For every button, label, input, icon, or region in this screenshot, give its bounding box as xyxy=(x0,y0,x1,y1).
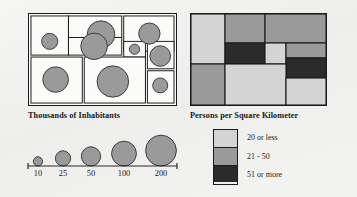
choropleth-map-canvas xyxy=(191,14,326,105)
scale-tick-label: 10 xyxy=(34,169,42,178)
figure-canvas: Thousands of Inhabitants Persons per Squ… xyxy=(0,0,357,197)
choropleth-cell xyxy=(265,43,286,64)
proportional-symbol xyxy=(129,44,139,54)
scale-symbol-group xyxy=(33,135,176,166)
legend-swatch-column xyxy=(213,129,238,185)
proportional-symbol-map xyxy=(28,13,177,106)
choropleth-cell xyxy=(225,64,286,105)
symbol-size-scale: 102550100200 xyxy=(25,132,180,184)
legend-label-1: 21 - 50 xyxy=(247,148,282,167)
scale-tick-label-group: 102550100200 xyxy=(34,169,167,178)
choropleth-map xyxy=(190,13,327,106)
choropleth-cell xyxy=(191,14,225,64)
proportional-symbol xyxy=(42,33,58,49)
choropleth-legend: 20 or less 21 - 50 51 or more xyxy=(213,129,282,185)
legend-label-column: 20 or less 21 - 50 51 or more xyxy=(247,129,282,185)
scale-symbol xyxy=(146,135,177,166)
choropleth-map-title: Persons per Square Kilometer xyxy=(190,111,298,120)
proportional-symbol xyxy=(153,78,168,93)
choropleth-cell-group xyxy=(191,14,326,105)
legend-swatch-1 xyxy=(214,147,237,164)
proportional-map-title: Thousands of Inhabitants xyxy=(28,111,120,120)
proportional-symbol-map-canvas xyxy=(29,14,176,105)
proportional-symbol xyxy=(150,46,171,67)
proportional-symbol xyxy=(81,33,108,59)
legend-swatch-0 xyxy=(214,130,237,147)
choropleth-cell xyxy=(286,58,326,78)
proportional-symbol xyxy=(43,67,69,92)
choropleth-cell xyxy=(286,78,326,105)
scale-symbol xyxy=(55,151,70,166)
choropleth-cell xyxy=(286,43,326,58)
proportional-symbol xyxy=(97,66,129,97)
choropleth-cell xyxy=(225,43,265,64)
scale-symbol xyxy=(33,157,42,166)
scale-tick-label: 25 xyxy=(59,169,67,178)
scale-symbol xyxy=(112,141,137,166)
choropleth-cell xyxy=(225,14,265,43)
choropleth-cell xyxy=(191,64,225,105)
scale-tick-label: 50 xyxy=(87,169,95,178)
proportional-symbol xyxy=(139,23,160,44)
legend-label-2: 51 or more xyxy=(247,166,282,185)
legend-label-0: 20 or less xyxy=(247,129,282,148)
scale-tick-label: 200 xyxy=(155,169,168,178)
legend-swatch-2 xyxy=(214,165,237,182)
scale-tick-label: 100 xyxy=(118,169,131,178)
symbol-size-scale-canvas: 102550100200 xyxy=(25,132,180,184)
choropleth-cell xyxy=(265,14,326,43)
scale-symbol xyxy=(81,147,100,166)
